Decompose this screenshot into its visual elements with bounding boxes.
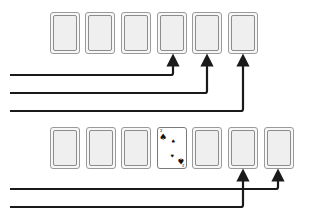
connector-lines [0, 0, 312, 223]
arrow-to-card-6b [10, 175, 243, 207]
arrow-to-card-7 [10, 175, 278, 189]
arrow-to-card-5 [10, 60, 207, 93]
arrow-to-card-4 [10, 60, 173, 75]
